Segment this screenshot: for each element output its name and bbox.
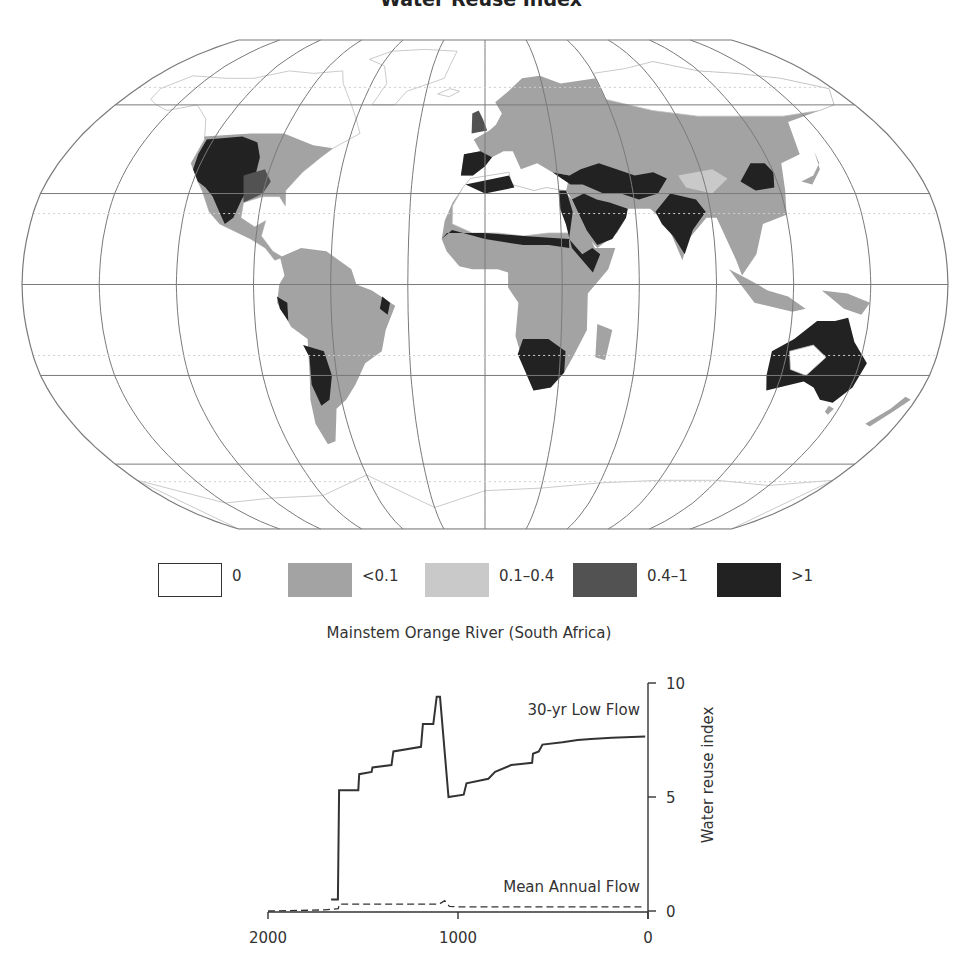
y-axis-label: Water reuse index <box>699 707 717 844</box>
south-america <box>277 248 395 444</box>
x-tick-label: 1000 <box>439 929 477 947</box>
chart-title: Mainstem Orange River (South Africa) <box>0 624 950 642</box>
iceland <box>438 89 460 97</box>
chart-series: 30-yr Low FlowMean Annual Flow <box>268 697 645 911</box>
legend-swatch <box>288 563 352 597</box>
greenland <box>369 49 457 105</box>
new-guinea <box>822 291 870 315</box>
y-tick-label: 10 <box>666 675 685 693</box>
chart-axes: 2000100000510Water reuse index <box>249 675 717 947</box>
world-map <box>0 0 962 560</box>
series-line-1 <box>268 901 645 911</box>
y-tick-label: 0 <box>666 903 676 921</box>
indonesia <box>729 269 806 312</box>
japan <box>801 151 820 184</box>
legend-swatch <box>425 563 489 597</box>
legend-label: 0 <box>232 567 242 585</box>
madagascar <box>595 324 612 360</box>
new-zealand <box>865 397 911 427</box>
legend-label: 0.4–1 <box>647 567 688 585</box>
legend-swatch <box>573 563 637 597</box>
x-tick-label: 0 <box>643 929 653 947</box>
legend: 0<0.10.1–0.40.4–1>1 <box>0 563 962 599</box>
legend-label: 0.1–0.4 <box>499 567 554 585</box>
legend-swatch <box>717 563 781 597</box>
series-line-0 <box>331 697 645 900</box>
sahara <box>452 172 573 236</box>
series-label: 30-yr Low Flow <box>527 701 640 719</box>
x-tick-label: 2000 <box>249 929 287 947</box>
series-label: Mean Annual Flow <box>503 878 640 896</box>
y-tick-label: 5 <box>666 789 676 807</box>
iberia <box>461 151 492 175</box>
legend-swatch <box>158 563 222 597</box>
legend-label: >1 <box>791 567 813 585</box>
legend-label: <0.1 <box>362 567 398 585</box>
tasmania <box>825 406 834 415</box>
